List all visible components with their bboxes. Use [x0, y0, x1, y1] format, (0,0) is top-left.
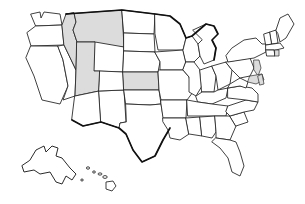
state-south-dakota[interactable] [124, 33, 155, 52]
state-maine[interactable] [276, 14, 294, 42]
state-minnesota[interactable] [155, 14, 186, 50]
alaska-inset-group [22, 146, 76, 184]
state-wisconsin[interactable] [183, 36, 200, 62]
state-louisiana[interactable] [163, 118, 189, 140]
hawaii-island-niihau[interactable] [81, 179, 84, 181]
state-mississippi[interactable] [186, 117, 202, 136]
hawaii-island-molokai[interactable] [98, 173, 102, 175]
state-new-york[interactable] [226, 38, 268, 62]
state-oklahoma[interactable] [124, 90, 161, 105]
state-virginia[interactable] [228, 86, 258, 102]
hawaii-island-maui[interactable] [103, 176, 107, 179]
state-kansas[interactable] [123, 72, 159, 90]
hawaii-island-hawaii[interactable] [106, 181, 116, 191]
state-connecticut[interactable] [266, 50, 275, 56]
state-nebraska[interactable] [123, 51, 160, 72]
state-wyoming[interactable] [94, 42, 124, 72]
state-arkansas[interactable] [161, 100, 187, 118]
western-states-group [26, 10, 126, 128]
state-florida[interactable] [212, 138, 244, 176]
state-rhode-island[interactable] [275, 50, 279, 56]
northeast-states-group [226, 14, 294, 85]
state-alaska[interactable] [22, 146, 76, 184]
us-map-figure [0, 0, 305, 204]
state-alabama[interactable] [200, 116, 216, 138]
us-map-svg [0, 0, 305, 204]
state-delaware[interactable] [258, 74, 264, 85]
hawaii-island-oahu[interactable] [93, 171, 96, 173]
hawaii-island-kauai[interactable] [86, 167, 89, 169]
state-new-jersey[interactable] [254, 60, 261, 76]
state-oregon[interactable] [27, 25, 64, 46]
state-arizona[interactable] [72, 91, 101, 126]
state-washington[interactable] [31, 12, 62, 26]
state-iowa[interactable] [155, 50, 186, 70]
hawaii-inset-group [81, 167, 116, 191]
state-colorado[interactable] [99, 71, 124, 91]
